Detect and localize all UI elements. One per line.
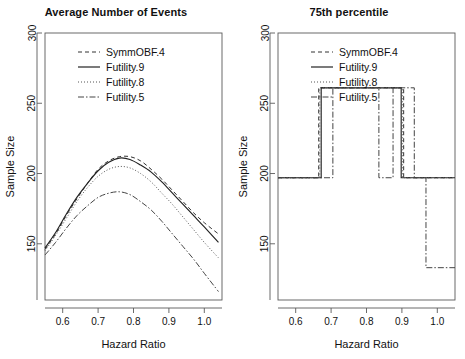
series-futility-8: [45, 166, 218, 257]
y-tick-label-300: 300: [260, 24, 271, 41]
panel-75th-percentile: 75th percentile 1502002503000.60.70.80.9…: [233, 0, 465, 359]
panel-average-number-of-events: Average Number of Events 1502002503000.6…: [0, 0, 232, 359]
y-tick-label-200: 200: [27, 165, 38, 182]
x-tick-label-0.8: 0.8: [127, 316, 141, 327]
y-tick-label-300: 300: [27, 24, 38, 41]
y-axis-title: Sample Size: [4, 136, 16, 198]
plot-area-left: 1502002503000.60.70.80.91.0Hazard RatioS…: [0, 0, 232, 359]
x-tick-label-0.9: 0.9: [395, 316, 409, 327]
y-tick-label-250: 250: [260, 94, 271, 111]
legend-label-futility-5: Futility.5: [106, 91, 144, 103]
x-axis-title: Hazard Ratio: [334, 338, 398, 350]
x-tick-label-0.6: 0.6: [289, 316, 303, 327]
legend-label-futility-9: Futility.9: [339, 61, 377, 73]
legend-label-futility-8: Futility.8: [106, 76, 144, 88]
x-axis-title: Hazard Ratio: [101, 338, 165, 350]
plot-frame: [45, 33, 222, 300]
legend-label-futility-9: Futility.9: [106, 61, 144, 73]
y-tick-label-150: 150: [260, 235, 271, 252]
x-tick-label-1.0: 1.0: [197, 316, 211, 327]
plot-area-right: 1502002503000.60.70.80.91.0Hazard RatioS…: [233, 0, 465, 359]
legend-label-futility-5: Futility.5: [339, 91, 377, 103]
x-tick-label-0.7: 0.7: [324, 316, 338, 327]
x-tick-label-1.0: 1.0: [430, 316, 444, 327]
series-symmobf-4: [45, 156, 218, 249]
y-axis-title: Sample Size: [237, 136, 249, 198]
x-tick-label-0.6: 0.6: [56, 316, 70, 327]
figure-root: Average Number of Events 1502002503000.6…: [0, 0, 465, 359]
series-futility-9: [45, 158, 218, 248]
x-tick-label-0.7: 0.7: [91, 316, 105, 327]
legend-label-symmobf-4: SymmOBF.4: [339, 46, 398, 58]
y-tick-label-250: 250: [27, 94, 38, 111]
y-tick-label-150: 150: [27, 235, 38, 252]
y-tick-label-200: 200: [260, 165, 271, 182]
x-tick-label-0.8: 0.8: [360, 316, 374, 327]
legend-label-symmobf-4: SymmOBF.4: [106, 46, 165, 58]
plot-frame: [278, 33, 455, 300]
legend-label-futility-8: Futility.8: [339, 76, 377, 88]
x-tick-label-0.9: 0.9: [162, 316, 176, 327]
